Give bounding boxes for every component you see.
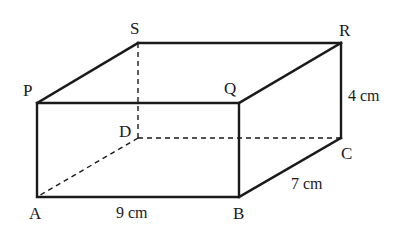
vertex-label-Q: Q	[224, 79, 236, 98]
vertex-label-R: R	[339, 21, 351, 40]
edge-RQ	[239, 43, 341, 103]
edge-PS	[37, 43, 138, 103]
dimension-width-label: 7 cm	[291, 175, 323, 192]
vertex-label-B: B	[233, 204, 244, 223]
cuboid-diagram: S R P Q D C A B 9 cm 7 cm 4 cm	[0, 0, 396, 236]
vertex-label-D: D	[119, 122, 131, 141]
vertex-label-P: P	[23, 81, 32, 100]
vertex-label-C: C	[341, 144, 352, 163]
vertex-label-A: A	[29, 204, 42, 223]
dimension-length-label: 9 cm	[116, 204, 148, 221]
edge-CB	[239, 138, 341, 197]
edge-DA-hidden	[37, 138, 138, 197]
dimension-height-label: 4 cm	[348, 87, 380, 104]
vertex-label-S: S	[130, 19, 139, 38]
